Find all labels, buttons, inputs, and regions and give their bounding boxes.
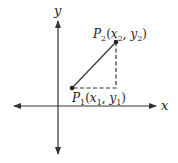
distance-diagram: x y P2(x2, y2) P1(x1, y1) bbox=[0, 0, 178, 163]
label-p1: P1(x1, y1) bbox=[71, 91, 126, 107]
label-p2: P2(x2, y2) bbox=[92, 27, 147, 43]
segment-p1-p2 bbox=[72, 42, 116, 88]
y-axis-label: y bbox=[53, 3, 62, 18]
x-axis-label: x bbox=[161, 98, 169, 113]
point-p1 bbox=[70, 86, 75, 91]
